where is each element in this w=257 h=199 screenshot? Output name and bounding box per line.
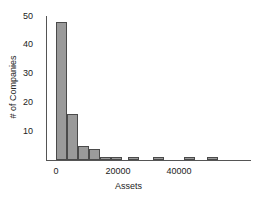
histogram-bar: [67, 114, 78, 160]
plot-area: [0, 0, 257, 199]
y-axis-title: # of Companies: [8, 22, 18, 152]
histogram-bar: [56, 22, 67, 160]
histogram-bar: [78, 146, 89, 160]
histogram-bar: [207, 157, 218, 160]
x-axis-title: Assets: [0, 181, 257, 191]
histogram-bar: [153, 157, 164, 160]
histogram-bar: [128, 157, 139, 160]
histogram-figure: 50 40 30 20 10 0 20000 40000: [0, 0, 257, 199]
histogram-bar: [89, 149, 100, 160]
histogram-bar: [100, 157, 111, 160]
histogram-bar: [184, 157, 195, 160]
histogram-bar: [111, 157, 122, 160]
